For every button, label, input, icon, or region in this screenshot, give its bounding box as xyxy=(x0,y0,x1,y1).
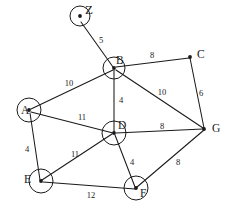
graph-svg-canvas: 510841061148114128 ZBCADGEF xyxy=(0,0,226,216)
graph-node-point-z xyxy=(78,14,82,18)
graph-node-point-c xyxy=(188,55,192,59)
graph-node-label-g: G xyxy=(212,122,220,134)
graph-node-label-d: D xyxy=(118,119,126,131)
nodes-layer xyxy=(17,6,206,200)
graph-node-label-a: A xyxy=(21,104,30,116)
edge-weight-d-e: 11 xyxy=(71,149,79,159)
graph-node-point-e xyxy=(39,179,43,183)
edge-weight-b-d: 4 xyxy=(119,95,124,105)
graph-edge-e-f xyxy=(43,182,135,189)
graph-edge-z-b xyxy=(81,22,113,67)
graph-edge-b-g xyxy=(116,70,203,128)
graph-edge-f-g xyxy=(137,130,204,187)
graph-node-label-b: B xyxy=(116,54,124,66)
edge-weight-c-g: 6 xyxy=(199,88,203,98)
graph-node-point-f xyxy=(134,186,138,190)
edge-weight-z-b: 5 xyxy=(99,35,103,45)
edge-weight-a-d: 11 xyxy=(78,112,86,122)
graph-node-label-c: C xyxy=(197,48,205,60)
edge-weight-a-b: 10 xyxy=(65,78,74,88)
edge-weight-d-f: 4 xyxy=(130,157,135,167)
graph-edge-a-e xyxy=(30,113,40,180)
graph-node-label-e: E xyxy=(24,173,31,185)
edge-weight-b-c: 8 xyxy=(150,50,154,60)
graph-edge-a-b xyxy=(31,70,113,109)
graph-node-point-b xyxy=(112,66,116,70)
graph-node-point-d xyxy=(112,131,116,135)
graph-node-point-g xyxy=(202,127,206,131)
edge-weight-e-f: 12 xyxy=(87,190,96,200)
graph-node-label-f: F xyxy=(140,187,146,199)
graph-edge-a-d xyxy=(31,112,113,133)
graph-node-label-z: Z xyxy=(85,2,93,17)
graph-diagram: 510841061148114128 ZBCADGEF xyxy=(0,0,226,216)
edge-weight-b-g: 10 xyxy=(158,87,167,97)
edge-weight-d-g: 8 xyxy=(160,121,164,131)
edge-weight-f-g: 8 xyxy=(176,157,180,167)
edge-weight-a-e: 4 xyxy=(25,144,30,154)
